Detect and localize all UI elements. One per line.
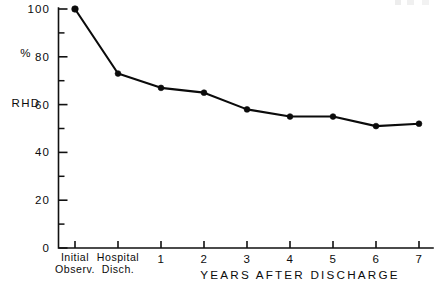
data-point	[115, 71, 121, 77]
data-point	[158, 85, 164, 91]
data-point	[201, 90, 207, 96]
data-point	[287, 114, 293, 120]
data-point	[72, 6, 79, 13]
chart-figure: % RHD 020406080100 InitialObserv.Hospita…	[0, 0, 445, 288]
plot-area	[0, 0, 445, 288]
data-point	[416, 121, 422, 127]
data-point	[373, 123, 379, 129]
data-point	[330, 114, 336, 120]
data-point	[244, 106, 250, 112]
tick-marks-group	[59, 9, 420, 248]
data-point-markers	[72, 6, 422, 129]
